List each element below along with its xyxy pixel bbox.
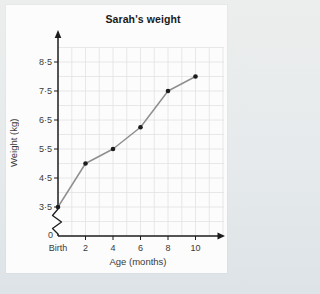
x-tick-label: 2 [83,243,88,253]
x-tick-label: Birth [49,243,68,253]
y-tick-label: 3·5 [39,202,52,212]
data-point [83,161,88,166]
data-point [56,205,61,210]
x-tick-label: 4 [110,243,115,253]
data-point [166,89,171,94]
y-tick-label: 8·5 [39,57,52,67]
origin-label: 0 [48,230,53,240]
weight-line-chart: 3·54·55·56·57·58·50Birth246810 [6,5,227,273]
x-tick-label: 10 [190,243,200,253]
chart-card: Sarah's weight Weight (kg) 3·54·55·56·57… [6,5,227,273]
y-tick-label: 4·5 [39,173,52,183]
data-point [111,147,116,152]
y-tick-label: 7·5 [39,86,52,96]
x-axis-label: Age (months) [58,256,218,267]
page-background: { "page": { "background": "#e6eaec", "ca… [0,0,241,294]
y-tick-label: 6·5 [39,115,52,125]
x-tick-label: 8 [165,243,170,253]
x-tick-label: 6 [138,243,143,253]
data-point [138,125,143,130]
y-tick-label: 5·5 [39,144,52,154]
x-axis-arrow [218,233,226,240]
y-axis-arrow [55,30,62,38]
y-axis-break [53,209,62,234]
data-point [193,74,198,79]
